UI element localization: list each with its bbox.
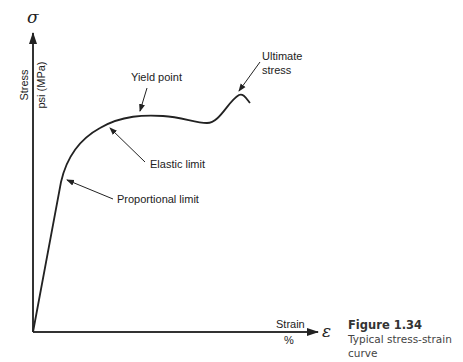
stress-strain-curve	[33, 95, 250, 332]
x-axis-label: Strain	[276, 318, 305, 330]
proportional-limit-arrow	[67, 180, 113, 199]
y-axis-label: Stress	[18, 69, 30, 101]
y-axis-unit: psi (MPa)	[35, 61, 47, 108]
epsilon-symbol: ε	[322, 321, 331, 341]
proportional-limit-label: Proportional limit	[117, 193, 199, 205]
caption-text: Typical stress-strain curve	[348, 332, 463, 360]
elastic-limit-label: Elastic limit	[150, 158, 205, 170]
sigma-symbol: σ	[27, 7, 39, 27]
figure-caption: Figure 1.34 Typical stress-strain curve	[348, 318, 463, 360]
ultimate-stress-label-line1: Ultimate	[262, 50, 302, 62]
yield-point-label: Yield point	[131, 71, 182, 83]
x-axis-unit: %	[284, 334, 294, 346]
caption-title: Figure 1.34	[348, 318, 463, 332]
ultimate-stress-label-line2: stress	[262, 64, 292, 76]
stress-strain-diagram: σ ε Stress psi (MPa) Strain % Proportion…	[0, 0, 463, 362]
elastic-limit-arrow	[110, 128, 145, 162]
ultimate-stress-arrow	[239, 62, 260, 91]
yield-point-arrow	[140, 88, 147, 111]
